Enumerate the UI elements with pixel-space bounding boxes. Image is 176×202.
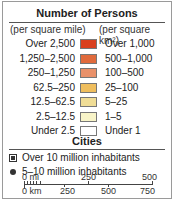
density-per-km: 500–1,000 — [105, 53, 152, 64]
density-swatch — [80, 68, 97, 78]
density-per-km: Over 1,000 — [105, 38, 154, 49]
map-legend: Number of Persons (per square mile) (per… — [2, 1, 172, 199]
density-swatch — [80, 83, 97, 93]
density-swatch — [80, 97, 97, 107]
cities-title: Cities — [3, 135, 171, 147]
density-swatch — [80, 39, 97, 49]
density-per-mile: 250–1,250 — [28, 67, 75, 78]
divider — [9, 22, 165, 23]
density-per-mile: 1,250–2,500 — [19, 53, 75, 64]
density-per-km: 25–100 — [105, 82, 138, 93]
scale-bar: 0 mi 250 500 0 km 250 500 750 — [22, 172, 162, 202]
scale-label-km-0: 0 km — [22, 186, 42, 196]
city-label: Over 10 million inhabitants — [22, 152, 140, 163]
density-per-mile: 62.5–250 — [33, 82, 75, 93]
divider — [9, 149, 165, 150]
scale-label-mi-500: 500 — [142, 172, 157, 182]
density-row: 62.5–25025–100 — [3, 82, 171, 96]
density-per-km: 1–5 — [105, 111, 122, 122]
density-row: 2.5–12.51–5 — [3, 111, 171, 125]
scale-label-km-500: 500 — [101, 186, 116, 196]
scale-label-km-750: 750 — [140, 186, 155, 196]
density-swatch — [80, 54, 97, 64]
density-per-mile: 12.5–62.5 — [31, 96, 76, 107]
dot-city-icon — [9, 168, 17, 176]
legend-title: Number of Persons — [3, 7, 171, 19]
density-per-km: 5–25 — [105, 96, 127, 107]
density-per-mile: 2.5–12.5 — [36, 111, 75, 122]
density-row: 250–1,250100–500 — [3, 67, 171, 81]
density-row: Over 2,500Over 1,000 — [3, 38, 171, 52]
square-city-icon — [9, 154, 17, 162]
density-per-mile: Over 2,500 — [26, 38, 75, 49]
density-per-km: 100–500 — [105, 67, 144, 78]
header-per-square-mile: (per square mile) — [10, 24, 86, 35]
density-row: 1,250–2,500500–1,000 — [3, 53, 171, 67]
scale-label-km-250: 250 — [60, 186, 75, 196]
density-row: 12.5–62.55–25 — [3, 96, 171, 110]
city-legend-over-10m: Over 10 million inhabitants — [9, 152, 140, 163]
density-swatch — [80, 112, 97, 122]
